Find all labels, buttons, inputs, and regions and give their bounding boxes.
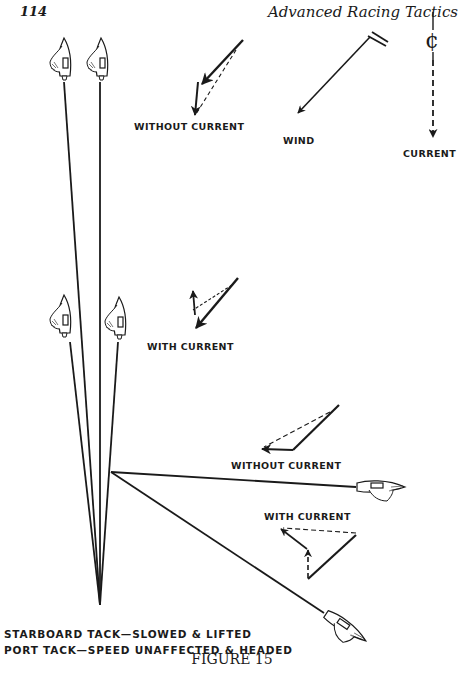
- wind-arrow: [298, 32, 388, 113]
- current-symbol: ¢: [425, 30, 439, 52]
- boat-port-1: [357, 481, 405, 501]
- boat-starboard-4: [105, 297, 126, 339]
- vector-starboard-with-current: [193, 278, 238, 328]
- label-port-without-current: WITHOUT CURRENT: [231, 460, 341, 471]
- sailing-diagram: [0, 0, 464, 676]
- caption-starboard: STARBOARD TACK—SLOWED & LIFTED: [4, 628, 252, 640]
- label-starboard-without-current: WITHOUT CURRENT: [134, 121, 244, 132]
- label-port-with-current: WITH CURRENT: [264, 511, 351, 522]
- vector-starboard-without-current: [195, 40, 243, 115]
- vector-port-with-current: [281, 528, 356, 579]
- boat-starboard-1: [50, 38, 71, 80]
- label-starboard-with-current: WITH CURRENT: [147, 341, 234, 352]
- label-current: CURRENT: [403, 148, 456, 159]
- boat-starboard-2: [87, 38, 108, 80]
- figure-title: FIGURE 15: [0, 651, 464, 667]
- vector-port-without-current: [262, 405, 339, 450]
- boat-starboard-3: [50, 295, 71, 337]
- label-wind: WIND: [283, 135, 314, 146]
- boat-port-2: [318, 609, 369, 653]
